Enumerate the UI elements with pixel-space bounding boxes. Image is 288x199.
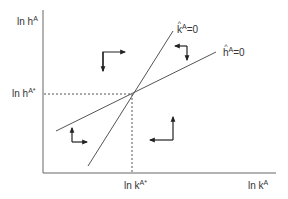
h-hat-suffix: =0 xyxy=(233,47,244,58)
k-hat-locus-label: kA=0 xyxy=(177,25,198,35)
phase-diagram xyxy=(0,0,288,199)
arrow-pair-right-up xyxy=(72,128,87,142)
h-hat-symbol: h xyxy=(223,48,229,58)
arrow-pair-left-up xyxy=(150,117,173,140)
x-star-label-sup: A* xyxy=(140,179,147,186)
h-hat-zero-locus xyxy=(56,52,216,131)
y-star-label-sup: A* xyxy=(28,87,35,94)
arrow-pair-right-down xyxy=(103,52,125,71)
y-axis-label: ln hA xyxy=(17,17,38,27)
x-star-label-base: ln k xyxy=(124,180,140,191)
x-axis-label-base: ln k xyxy=(248,180,264,191)
y-star-label-base: ln h xyxy=(12,88,28,99)
k-hat-suffix: =0 xyxy=(187,24,198,35)
k-hat-symbol: k xyxy=(177,25,182,35)
x-steady-state-label: ln kA* xyxy=(124,181,147,191)
k-hat-zero-locus xyxy=(88,31,173,166)
y-axis-label-sup: A xyxy=(33,15,38,22)
h-hat-locus-label: hA=0 xyxy=(223,48,245,58)
arrow-pair-left-down xyxy=(175,46,187,60)
y-axis-label-base: ln h xyxy=(17,16,33,27)
x-axis-label: ln kA xyxy=(248,181,268,191)
x-axis-label-sup: A xyxy=(264,179,269,186)
y-steady-state-label: ln hA* xyxy=(12,89,36,99)
